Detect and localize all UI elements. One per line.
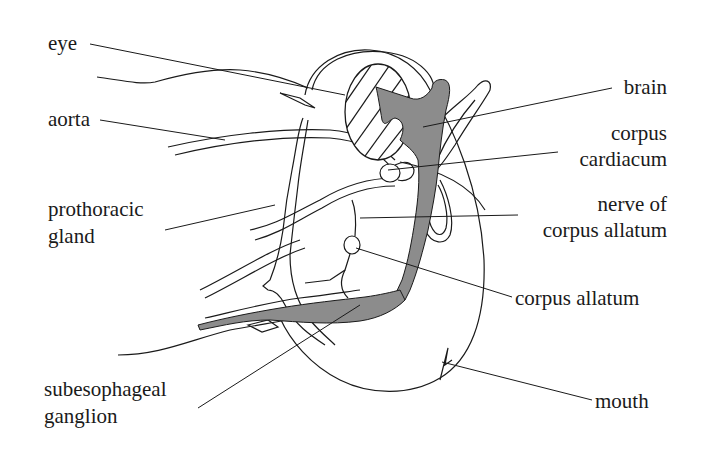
- subesophageal-ganglion: [198, 290, 405, 330]
- label-mouth: mouth: [595, 390, 649, 413]
- label-nerve-of-corpus-allatum-line1: nerve of: [598, 193, 667, 216]
- label-corpus-cardiacum-line2: cardiacum: [580, 148, 667, 171]
- label-subesophageal-ganglion-line2: ganglion: [44, 405, 118, 428]
- label-corpus-allatum: corpus allatum: [515, 287, 639, 310]
- label-subesophageal-ganglion-line1: subesophageal: [44, 378, 166, 401]
- label-nerve-of-corpus-allatum-line2: corpus allatum: [543, 219, 667, 242]
- label-brain: brain: [624, 76, 667, 99]
- label-aorta: aorta: [48, 108, 90, 131]
- label-eye: eye: [48, 32, 77, 55]
- brain: [376, 79, 450, 300]
- label-corpus-cardiacum-line1: corpus: [611, 122, 667, 145]
- label-prothoracic-gland-line1: prothoracic: [48, 198, 144, 221]
- label-prothoracic-gland-line2: gland: [48, 225, 95, 248]
